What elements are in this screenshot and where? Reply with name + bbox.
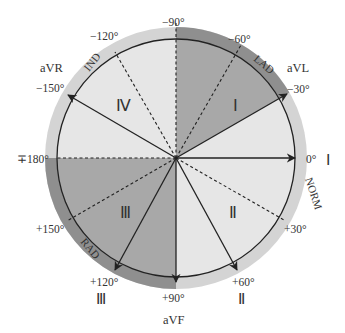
hexaxial-diagram: −90° −60° −30° 0° +30° +60° +90° +120° +…: [0, 0, 345, 333]
angle-label-minus-120: −120°: [90, 30, 119, 42]
lead-label-aVF: aVF: [163, 313, 185, 327]
angle-label-180: ∓180°: [17, 153, 49, 165]
angle-label-0: 0°: [306, 153, 317, 165]
angle-label-plus-30: +30°: [284, 223, 307, 235]
quadrant-label-2: Ⅱ: [229, 204, 237, 221]
quadrant-label-4: Ⅳ: [116, 97, 131, 114]
angle-label-plus-90: +90°: [162, 292, 185, 304]
quadrant-label-3: Ⅲ: [120, 204, 131, 221]
angle-label-minus-30: −30°: [287, 83, 310, 95]
angle-label-plus-60: +60°: [232, 276, 255, 288]
quadrant-label-1: Ⅰ: [233, 97, 238, 114]
lead-label-aVR: aVR: [40, 61, 64, 75]
region-label-norm: NORM: [303, 176, 325, 211]
lead-label-I: Ⅰ: [326, 152, 330, 168]
angle-label-minus-90: −90°: [162, 16, 185, 28]
lead-label-II: Ⅱ: [238, 291, 245, 307]
angle-label-plus-150: +150°: [36, 223, 65, 235]
sector-quadrant-3: [57, 158, 176, 277]
angle-label-minus-60: −60°: [228, 33, 251, 45]
lead-label-III: Ⅲ: [96, 291, 106, 307]
angle-label-plus-120: +120°: [90, 276, 119, 288]
angle-label-minus-150: −150°: [36, 82, 65, 94]
lead-label-aVL: aVL: [287, 61, 309, 75]
